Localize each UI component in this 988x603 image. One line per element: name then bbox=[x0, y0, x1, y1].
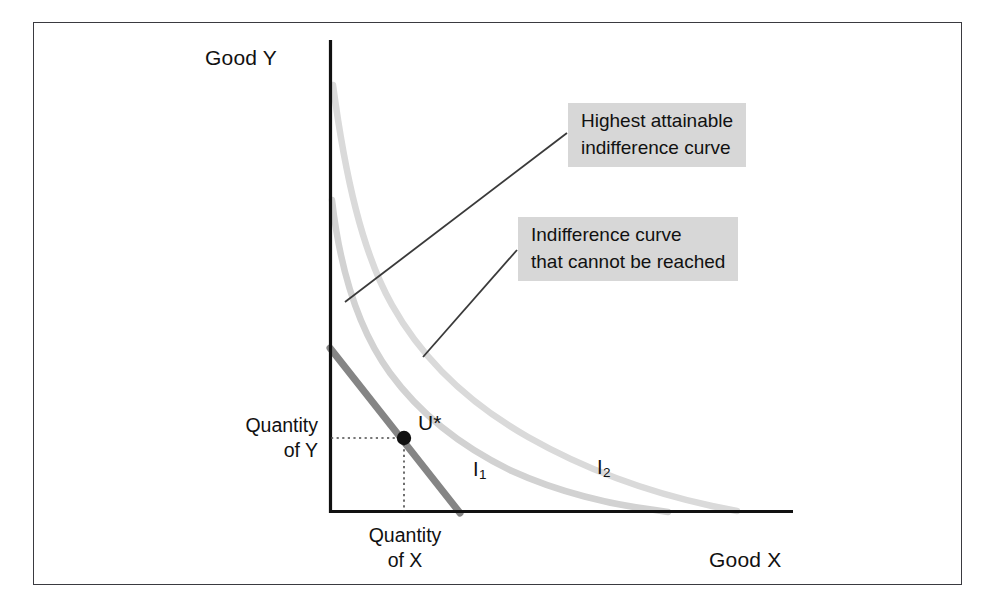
callout-highest-attainable: Highest attainable indifference curve bbox=[568, 103, 746, 167]
x-axis-title: Good X bbox=[709, 548, 781, 572]
quantity-of-y-line2: of Y bbox=[245, 438, 318, 463]
plot-graphics bbox=[0, 0, 988, 603]
curve-label-i1-base: I bbox=[473, 458, 479, 480]
quantity-of-y-label: Quantity of Y bbox=[245, 413, 318, 463]
figure-canvas: Good Y Good X Quantity of Y Quantity of … bbox=[0, 0, 988, 603]
quantity-of-x-line2: of X bbox=[330, 548, 480, 573]
quantity-of-x-label: Quantity of X bbox=[330, 523, 480, 573]
curve-label-i1-subscript: 1 bbox=[479, 467, 487, 482]
optimum-point-label: U* bbox=[418, 411, 441, 435]
callout-highest-line1: Highest attainable bbox=[581, 107, 733, 134]
callout-unreachable-line2: that cannot be reached bbox=[531, 248, 725, 275]
curve-label-i2-subscript: 2 bbox=[603, 465, 611, 480]
callout-unreachable-line1: Indifference curve bbox=[531, 221, 725, 248]
callout-highest-line2: indifference curve bbox=[581, 134, 733, 161]
curve-label-i1: I1 bbox=[473, 458, 486, 481]
callout-unreachable-curve: Indifference curve that cannot be reache… bbox=[518, 217, 738, 281]
quantity-of-x-line1: Quantity bbox=[330, 523, 480, 548]
optimum-point-marker bbox=[397, 431, 411, 445]
quantity-of-y-line1: Quantity bbox=[245, 413, 318, 438]
curve-label-i2: I2 bbox=[597, 456, 610, 479]
y-axis-title: Good Y bbox=[205, 46, 277, 70]
callout-leader-unreachable bbox=[423, 250, 517, 357]
curve-label-i2-base: I bbox=[597, 456, 603, 478]
